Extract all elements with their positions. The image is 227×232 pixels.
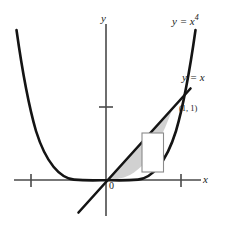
origin-label: 0: [109, 181, 114, 191]
curve-label-quartic-base: y = x: [172, 15, 195, 27]
x-axis-label: x: [203, 174, 208, 185]
curve-label-line: y = x: [182, 72, 205, 83]
representative-strip-rectangle: [142, 133, 164, 172]
y-axis-label: y: [101, 13, 106, 24]
line-y-equals-x: [79, 89, 191, 213]
curve-label-quartic-exponent: 4: [195, 13, 199, 22]
figure-container: y = x4 y = x (1, 1) 0 x y: [0, 0, 227, 232]
intersection-point-label: (1, 1): [179, 104, 197, 113]
plot-canvas: [0, 0, 227, 232]
curve-label-quartic: y = x4: [172, 14, 199, 27]
